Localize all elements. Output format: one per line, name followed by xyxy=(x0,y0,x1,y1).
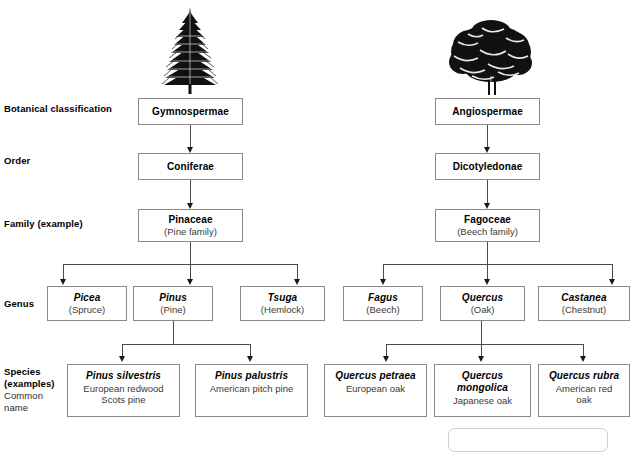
node-pinaceae-common: (Pine family) xyxy=(164,226,217,237)
node-fagoceae-name: Fagoceae xyxy=(464,214,511,226)
arrowhead-quercus-rubra xyxy=(580,356,586,362)
arrowhead-pinus-palustris xyxy=(247,356,253,362)
connector-dicotyledonae-to-fagoceae xyxy=(487,180,488,205)
connector-pinus-stem xyxy=(173,321,174,344)
node-gymnospermae[interactable]: Gymnospermae xyxy=(138,98,243,125)
arrowhead-pinus xyxy=(187,279,193,285)
node-genus-tsuga-name: Tsuga xyxy=(268,292,298,304)
node-genus-tsuga[interactable]: Tsuga (Hemlock) xyxy=(240,286,325,321)
row-label-botanical-classification: Botanical classification xyxy=(4,103,112,115)
node-angiospermae[interactable]: Angiospermae xyxy=(435,98,540,125)
connector-fagoceae-stem xyxy=(487,242,488,264)
node-coniferae-name: Coniferae xyxy=(167,161,214,173)
arrowhead-tsuga xyxy=(294,279,300,285)
connector-gymnospermae-to-coniferae xyxy=(190,125,191,149)
connector-angiospermae-to-dicotyledonae xyxy=(487,125,488,149)
connector-pinus-bus xyxy=(122,344,251,345)
node-species-quercus-mongolica-name: Quercus mongolica xyxy=(438,370,527,394)
node-species-pinus-silvestris[interactable]: Pinus silvestris European redwood Scots … xyxy=(67,364,180,417)
node-fagoceae[interactable]: Fagoceae (Beech family) xyxy=(435,209,540,242)
row-label-family: Family (example) xyxy=(4,218,83,230)
node-gymnospermae-name: Gymnospermae xyxy=(152,106,229,118)
row-label-order: Order xyxy=(4,155,30,167)
node-genus-fagus-common: (Beech) xyxy=(366,304,399,315)
node-genus-fagus[interactable]: Fagus (Beech) xyxy=(343,286,423,321)
node-genus-picea-common: (Spruce) xyxy=(69,304,105,315)
node-species-pinus-palustris-name: Pinus palustris xyxy=(215,370,288,382)
connector-quercus-bus xyxy=(386,344,584,345)
page-bottom-partial-box xyxy=(448,428,608,452)
node-species-quercus-petraea[interactable]: Quercus petraea European oak xyxy=(324,364,427,417)
node-genus-pinus-common: (Pine) xyxy=(160,304,185,315)
node-species-pinus-palustris-common: American pitch pine xyxy=(210,383,293,394)
node-genus-pinus[interactable]: Pinus (Pine) xyxy=(133,286,213,321)
node-genus-castanea[interactable]: Castanea (Chestnut) xyxy=(538,286,630,321)
arrowhead-quercus-mongolica xyxy=(478,356,484,362)
node-species-quercus-rubra[interactable]: Quercus rubra American red oak xyxy=(538,364,630,417)
node-species-quercus-mongolica[interactable]: Quercus mongolica Japanese oak xyxy=(434,364,531,417)
node-genus-castanea-common: (Chestnut) xyxy=(562,304,606,315)
node-species-quercus-petraea-common: European oak xyxy=(346,383,405,394)
broadleaf-tree-illustration xyxy=(448,18,534,100)
node-species-quercus-petraea-name: Quercus petraea xyxy=(335,370,415,382)
node-genus-picea-name: Picea xyxy=(74,292,101,304)
connector-quercus-stem xyxy=(481,321,482,344)
arrowhead-fagus xyxy=(380,279,386,285)
arrowhead-picea xyxy=(60,279,66,285)
node-species-pinus-palustris[interactable]: Pinus palustris American pitch pine xyxy=(195,364,308,417)
connector-fagoceae-bus xyxy=(383,264,612,265)
node-species-quercus-mongolica-common: Japanese oak xyxy=(453,395,512,406)
node-genus-tsuga-common: (Hemlock) xyxy=(261,304,304,315)
node-genus-pinus-name: Pinus xyxy=(159,292,187,304)
node-genus-castanea-name: Castanea xyxy=(561,292,606,304)
conifer-tree-illustration xyxy=(155,6,225,100)
node-species-quercus-rubra-name: Quercus rubra xyxy=(549,370,619,382)
node-species-quercus-rubra-common: American red oak xyxy=(556,383,613,405)
node-genus-quercus-name: Quercus xyxy=(462,292,503,304)
node-species-pinus-silvestris-name: Pinus silvestris xyxy=(86,370,161,382)
arrowhead-pinus-silvestris xyxy=(119,356,125,362)
row-label-genus: Genus xyxy=(4,298,34,310)
node-pinaceae[interactable]: Pinaceae (Pine family) xyxy=(138,209,243,242)
node-pinaceae-name: Pinaceae xyxy=(168,214,212,226)
row-label-species: Species (examples) xyxy=(4,366,55,389)
node-dicotyledonae-name: Dicotyledonae xyxy=(453,161,523,173)
node-dicotyledonae[interactable]: Dicotyledonae xyxy=(435,153,540,180)
node-fagoceae-common: (Beech family) xyxy=(457,226,518,237)
node-angiospermae-name: Angiospermae xyxy=(452,106,523,118)
arrowhead-castanea xyxy=(609,279,615,285)
node-genus-fagus-name: Fagus xyxy=(368,292,398,304)
arrowhead-quercus-petraea xyxy=(383,356,389,362)
row-label-common-name: Common name xyxy=(4,390,43,413)
node-genus-quercus-common: (Oak) xyxy=(471,304,495,315)
connector-coniferae-to-pinaceae xyxy=(190,180,191,205)
arrowhead-quercus xyxy=(484,279,490,285)
node-genus-quercus[interactable]: Quercus (Oak) xyxy=(440,286,525,321)
node-genus-picea[interactable]: Picea (Spruce) xyxy=(47,286,127,321)
node-coniferae[interactable]: Coniferae xyxy=(138,153,243,180)
connector-pinaceae-stem xyxy=(190,242,191,264)
connector-pinaceae-bus xyxy=(63,264,298,265)
node-species-pinus-silvestris-common: European redwood Scots pine xyxy=(83,383,163,405)
